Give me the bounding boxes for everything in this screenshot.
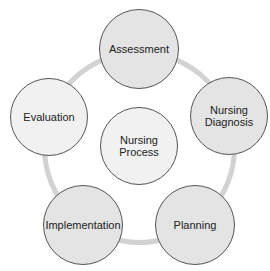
node-label-nursing-diagnosis: Nursing Diagnosis: [205, 104, 253, 128]
node-label-implementation: Implementation: [45, 219, 120, 231]
node-evaluation: Evaluation: [10, 78, 88, 156]
node-label-planning: Planning: [174, 219, 217, 231]
center-node-label: Nursing Process: [119, 134, 159, 158]
node-assessment: Assessment: [99, 9, 179, 89]
node-label-evaluation: Evaluation: [23, 111, 74, 123]
node-implementation: Implementation: [43, 185, 123, 265]
nursing-process-diagram: Nursing Process Assessment Nursing Diagn…: [0, 0, 270, 271]
node-planning: Planning: [155, 185, 235, 265]
node-nursing-diagnosis: Nursing Diagnosis: [190, 77, 268, 155]
center-node-nursing-process: Nursing Process: [100, 107, 178, 185]
node-label-assessment: Assessment: [109, 43, 169, 55]
